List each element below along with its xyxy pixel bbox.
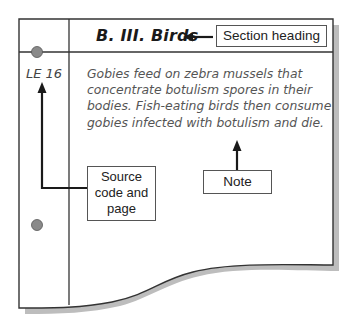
section-heading: B. III. Birds [96, 26, 199, 45]
card-body [19, 19, 333, 308]
punch-hole-top [32, 47, 43, 58]
source-code: LE 16 [21, 66, 67, 81]
note-card-diagram: B. III. Birds LE 16 Gobies feed on zebra… [0, 0, 355, 325]
callout-source-code: Source code and page [87, 166, 156, 221]
callout-note: Note [203, 170, 272, 194]
note-text: Gobies feed on zebra mussels that concen… [87, 66, 332, 131]
note-card-graphic [0, 0, 355, 325]
punch-hole-bottom [32, 220, 43, 231]
callout-section-heading: Section heading [216, 25, 327, 47]
